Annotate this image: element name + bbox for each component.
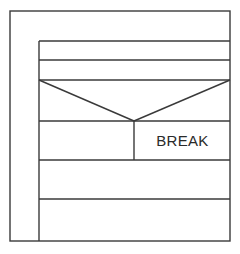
decision-right-diagonal: [134, 80, 230, 121]
decision-left-diagonal: [39, 80, 134, 121]
break-label: BREAK: [135, 121, 230, 160]
